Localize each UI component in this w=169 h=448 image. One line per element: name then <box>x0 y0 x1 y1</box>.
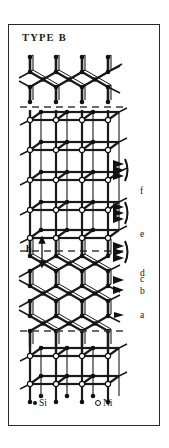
layer-label-a: a <box>140 310 144 320</box>
legend-si-label: Si <box>39 398 47 408</box>
marker-group-f <box>113 159 128 181</box>
si-symbol-icon <box>33 401 37 405</box>
marker-arrow-c <box>113 276 124 284</box>
marker-arrow-b <box>113 286 124 294</box>
layer-marker-arrows <box>110 24 150 426</box>
layer-label-f: f <box>140 186 143 196</box>
layer-label-e: e <box>140 229 144 239</box>
marker-arrow-a <box>114 312 124 318</box>
layer-label-c: c <box>140 274 144 284</box>
legend-item-si: Si <box>33 398 47 408</box>
legend-item-ni: Ni <box>95 398 113 408</box>
ni-symbol-icon <box>95 400 101 406</box>
legend-ni-label: Ni <box>103 398 113 408</box>
si-atoms-top <box>28 55 111 105</box>
height-measure-label: h <box>26 243 32 254</box>
marker-group-d <box>113 241 128 263</box>
ni-atoms-bottom <box>27 353 110 386</box>
layer-label-b: b <box>140 286 145 296</box>
marker-group-e <box>113 202 128 224</box>
figure-root: TYPE B <box>0 0 169 448</box>
